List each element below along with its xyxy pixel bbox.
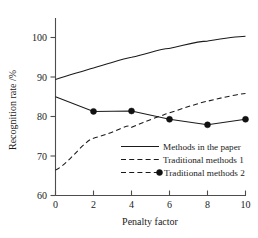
- data-point-marker: [167, 116, 173, 122]
- data-point-marker: [205, 122, 211, 128]
- legend-label-traditional-methods-1: Traditional methods 1: [163, 155, 244, 165]
- series-traditional-methods-2: [56, 97, 246, 125]
- x-tick-label-0: 0: [53, 199, 58, 210]
- legend-label-traditional-methods-2: Traditional methods 2: [164, 168, 245, 178]
- x-axis-title: Penalty factor: [122, 216, 178, 227]
- chart-figure: 60 70 80 90 100 0 2 4 6 8 10 Penalty fac…: [0, 0, 258, 238]
- y-axis-ticks: [51, 38, 56, 196]
- y-axis-tick-labels: 60 70 80 90 100: [32, 32, 47, 201]
- data-point-marker: [243, 116, 249, 122]
- x-tick-label-4: 4: [129, 199, 134, 210]
- legend-swatch-circle-marker-icon: [157, 170, 163, 176]
- y-tick-label-60: 60: [37, 190, 47, 201]
- chart-legend: Methods in the paper Traditional methods…: [121, 142, 245, 178]
- x-axis-tick-labels: 0 2 4 6 8 10: [53, 199, 251, 210]
- chart-canvas: 60 70 80 90 100 0 2 4 6 8 10 Penalty fac…: [0, 0, 258, 238]
- y-axis-title: Recognition rate /%: [7, 70, 18, 150]
- legend-label-methods-in-the-paper: Methods in the paper: [163, 142, 241, 152]
- series-methods-in-the-paper: [56, 36, 246, 79]
- x-tick-label-8: 8: [205, 199, 210, 210]
- y-tick-label-90: 90: [37, 72, 47, 83]
- x-tick-label-10: 10: [241, 199, 251, 210]
- legend-entry-traditional-methods-1: Traditional methods 1: [121, 155, 244, 165]
- x-tick-label-2: 2: [91, 199, 96, 210]
- legend-entry-traditional-methods-2: Traditional methods 2: [121, 168, 245, 178]
- x-tick-label-6: 6: [167, 199, 172, 210]
- data-point-marker: [91, 108, 97, 114]
- y-tick-label-70: 70: [37, 151, 47, 162]
- data-point-marker: [129, 108, 135, 114]
- x-axis-ticks: [56, 191, 246, 196]
- y-tick-label-100: 100: [32, 32, 47, 43]
- legend-entry-methods-in-the-paper: Methods in the paper: [121, 142, 241, 152]
- y-tick-label-80: 80: [37, 111, 47, 122]
